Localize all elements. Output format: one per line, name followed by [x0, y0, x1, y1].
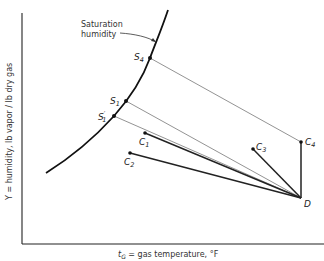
label-s4: S4	[134, 52, 144, 64]
point-c2	[128, 151, 132, 155]
arrow-head-icon	[151, 38, 156, 42]
line-c2-d	[130, 153, 301, 198]
line-c3-d	[253, 149, 301, 198]
point-s1	[124, 99, 128, 103]
point-s4	[148, 56, 152, 60]
annotation-arrow	[120, 33, 156, 42]
label-c2: C2	[124, 157, 134, 169]
annotation-line2: humidity	[81, 30, 117, 39]
x-axis-label: tG = gas temperature, °F	[118, 250, 219, 260]
label-s1-prime: S′1	[98, 110, 106, 124]
label-d: D	[304, 199, 311, 209]
label-c3: C3	[256, 142, 266, 154]
line-s4-c4	[150, 58, 301, 142]
line-c1-d	[145, 133, 301, 198]
point-c4	[299, 140, 303, 144]
point-c3	[251, 147, 255, 151]
point-s1-prime	[112, 114, 116, 118]
label-c4: C4	[305, 137, 315, 149]
label-c1: C1	[139, 137, 149, 149]
line-s1-d	[126, 101, 301, 198]
point-c1	[143, 131, 147, 135]
annotation-line1: Saturation	[81, 20, 123, 29]
y-axis-label: Y = humidity, lb vapor / lb dry gas	[5, 63, 14, 201]
label-s1: S1	[110, 96, 120, 108]
humidity-diagram: Saturation humidity S4 S1 S′1 C1 C2 C3 C…	[0, 0, 324, 261]
